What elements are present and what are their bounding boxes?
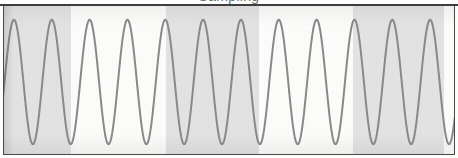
- sine-wave-path: [4, 20, 454, 144]
- waveform-layer: [4, 6, 454, 154]
- figure-root: Sampling: [0, 0, 458, 158]
- figure-caption: Sampling: [0, 0, 458, 4]
- plot-frame: [3, 4, 455, 155]
- waveform-svg: [4, 6, 454, 154]
- figure-caption-clip: Sampling: [0, 0, 458, 5]
